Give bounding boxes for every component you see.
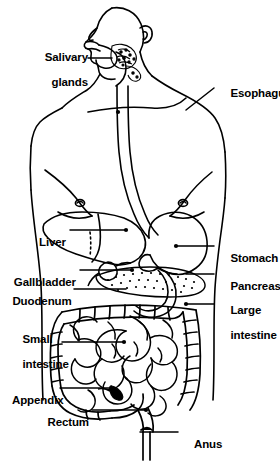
label-anus: Anus	[182, 425, 222, 463]
label-anus-text: Anus	[194, 438, 222, 450]
digestive-system-diagram: Salivary glands Esophagus Liver Stomach …	[0, 0, 280, 464]
label-salivary-glands-line2: glands	[52, 76, 88, 88]
label-large-intestine: Large intestine	[218, 291, 277, 354]
label-pancreas-text: Pancreas	[230, 280, 280, 292]
label-small-intestine: Small intestine	[10, 320, 60, 383]
label-large-intestine-line2: intestine	[230, 329, 276, 341]
dot-liver	[124, 228, 128, 232]
label-stomach-text: Stomach	[230, 252, 278, 264]
label-rectum-text: Rectum	[47, 416, 89, 428]
label-small-intestine-line2: intestine	[22, 358, 68, 370]
label-duodenum-text: Duodenum	[12, 295, 71, 307]
label-esophagus: Esophagus	[218, 74, 280, 112]
label-rectum: Rectum	[0, 403, 89, 441]
label-salivary-glands: Salivary glands	[0, 38, 88, 101]
dot-rectum	[144, 408, 148, 412]
dot-stomach	[174, 244, 178, 248]
label-salivary-glands-line1: Salivary	[45, 51, 88, 63]
label-esophagus-text: Esophagus	[230, 87, 280, 99]
dot-esophagus-top	[116, 110, 120, 114]
dot-large-intestine	[184, 302, 188, 306]
label-liver-text: Liver	[39, 236, 66, 248]
label-large-intestine-line1: Large	[230, 304, 261, 316]
label-duodenum: Duodenum	[0, 282, 71, 320]
dot-gallbladder	[130, 268, 134, 272]
dot-small-intestine	[122, 340, 126, 344]
label-small-intestine-line1: Small	[22, 333, 52, 345]
label-liver: Liver	[0, 223, 66, 261]
